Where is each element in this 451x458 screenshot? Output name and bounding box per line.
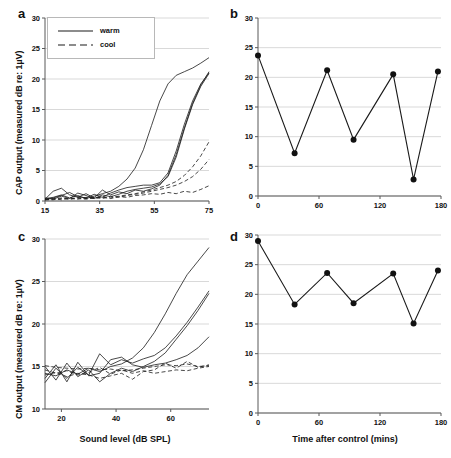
y-tick-label: 15 (32, 362, 40, 371)
x-tick-label: 120 (374, 201, 387, 210)
data-point-marker (411, 320, 417, 326)
y-tick-label: 25 (32, 277, 40, 286)
data-point-marker (292, 301, 298, 307)
panel-c-letter: c (18, 229, 25, 244)
y-tick-label: 20 (32, 75, 40, 84)
data-point-marker (351, 137, 357, 143)
y-tick-label: 15 (245, 103, 253, 112)
y-tick-label: 25 (245, 43, 253, 52)
y-tick-label: 0 (249, 409, 253, 418)
series-line (45, 291, 209, 383)
panel-b-plot: 051015202530060120180 (225, 0, 451, 229)
y-tick-label: 5 (36, 166, 40, 175)
y-tick-label: 30 (32, 14, 40, 23)
y-tick-label: 30 (245, 14, 253, 23)
data-point-marker (255, 238, 261, 244)
series-line (45, 337, 209, 382)
series-line (45, 293, 209, 381)
data-point-marker (390, 271, 396, 277)
y-tick-label: 20 (245, 73, 253, 82)
x-tick-label: 35 (95, 206, 103, 215)
x-tick-label: 15 (41, 206, 49, 215)
y-tick-label: 15 (245, 320, 253, 329)
x-tick-label: 0 (256, 201, 260, 210)
figure-container: a CAP output (measured dB re: 1µV) 05101… (0, 0, 451, 458)
data-point-marker (351, 300, 357, 306)
data-point-marker (435, 268, 441, 274)
data-point-marker (411, 176, 417, 182)
y-tick-label: 30 (32, 235, 40, 244)
panel-c-x-axis-label: Sound level (dB SPL) (40, 434, 210, 444)
data-point-marker (435, 68, 441, 74)
y-tick-label: 5 (249, 162, 253, 171)
y-tick-label: 10 (32, 405, 40, 414)
data-point-marker (390, 71, 396, 77)
x-tick-label: 60 (167, 414, 175, 423)
x-tick-label: 120 (374, 418, 387, 427)
x-tick-label: 40 (112, 414, 120, 423)
x-tick-label: 55 (150, 206, 158, 215)
y-tick-label: 20 (245, 290, 253, 299)
panel-d-letter: d (230, 229, 238, 244)
panel-c: c CM output (measured dB re: 1µV) 101520… (0, 229, 225, 458)
y-tick-label: 5 (249, 379, 253, 388)
y-tick-label: 0 (36, 197, 40, 206)
y-tick-label: 25 (245, 260, 253, 269)
x-tick-label: 20 (57, 414, 65, 423)
data-point-marker (255, 52, 261, 58)
data-point-marker (324, 270, 330, 276)
series-line (258, 55, 438, 179)
series-line (258, 241, 438, 323)
x-tick-label: 75 (205, 206, 213, 215)
x-tick-label: 0 (256, 418, 260, 427)
panel-c-y-axis-label: CM output (measured dB re: 1µV) (14, 279, 24, 419)
series-line (45, 74, 209, 200)
x-tick-label: 60 (315, 418, 323, 427)
series-line (45, 73, 209, 200)
data-point-marker (324, 67, 330, 73)
legend-label-warm: warm (100, 26, 120, 35)
legend-label-cool: cool (100, 40, 115, 49)
y-tick-label: 30 (245, 231, 253, 240)
y-tick-label: 10 (32, 136, 40, 145)
panel-a-legend: warm cool (47, 17, 155, 59)
panel-d-x-axis-label: Time after control (mins) (255, 434, 435, 444)
y-tick-label: 10 (245, 349, 253, 358)
panel-b: b 051015202530060120180 (225, 0, 451, 229)
y-tick-label: 15 (32, 105, 40, 114)
data-point-marker (292, 150, 298, 156)
panel-a: a CAP output (measured dB re: 1µV) 05101… (0, 0, 225, 229)
legend-swatches (48, 18, 152, 56)
x-tick-label: 60 (315, 201, 323, 210)
series-line (45, 72, 209, 199)
y-tick-label: 20 (32, 320, 40, 329)
x-tick-label: 180 (435, 201, 448, 210)
panel-c-plot: 1015202530204060 (0, 229, 225, 458)
panel-b-letter: b (230, 6, 238, 21)
panel-d: d 051015202530060120180 Time after contr… (225, 229, 451, 458)
panel-a-letter: a (18, 6, 25, 21)
panel-a-y-axis-label: CAP output (measured dB re: 1µV) (14, 51, 24, 195)
y-tick-label: 0 (249, 192, 253, 201)
y-tick-label: 25 (32, 44, 40, 53)
y-tick-label: 10 (245, 132, 253, 141)
x-tick-label: 180 (435, 418, 448, 427)
panel-d-plot: 051015202530060120180 (225, 229, 451, 458)
